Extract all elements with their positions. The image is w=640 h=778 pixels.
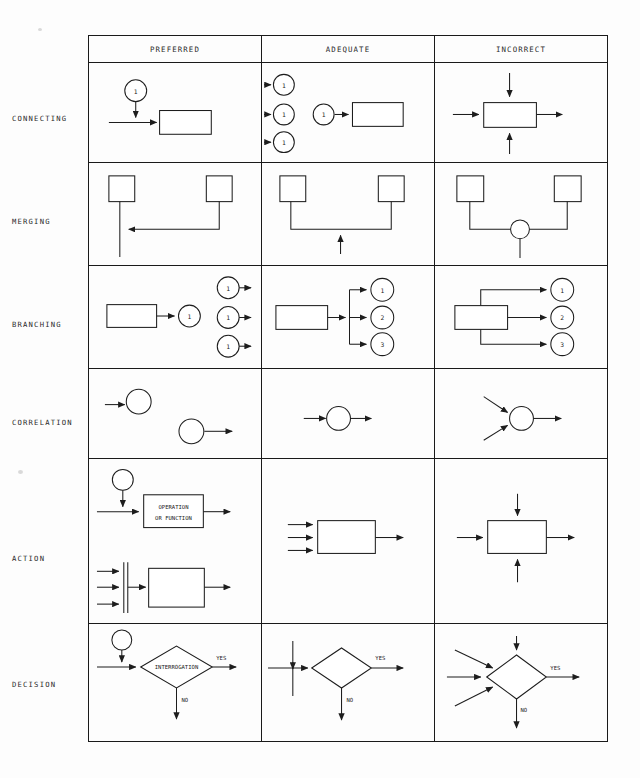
process-box — [109, 176, 135, 202]
decision-label: INTERROGATION — [155, 664, 199, 670]
operation-label-line2: OR FUNCTION — [155, 515, 192, 521]
row-label-merging: MERGING — [0, 217, 86, 226]
decision-diamond — [487, 655, 547, 699]
cell-merging-incorrect — [435, 163, 607, 265]
yes-label: YES — [550, 665, 560, 671]
row-label-action: ACTION — [0, 554, 86, 563]
cell-branching-adequate: 1 2 3 — [262, 266, 435, 368]
cell-connecting-incorrect — [435, 63, 607, 162]
connector-label: 1 — [134, 88, 138, 95]
process-box — [455, 306, 508, 330]
connector-label: 3 — [560, 341, 564, 348]
paper-speck — [38, 28, 42, 31]
correlation-circle — [179, 419, 204, 444]
process-box — [149, 568, 205, 607]
table-body: 1 1 1 1 — [89, 63, 607, 741]
row-label-correlation: CORRELATION — [0, 418, 86, 427]
diagram-sheet: CONNECTING MERGING BRANCHING CORRELATION… — [0, 0, 640, 778]
correlation-circle — [126, 389, 151, 414]
correlation-circle — [510, 407, 534, 431]
process-box — [206, 176, 232, 202]
connector-label: 1 — [188, 313, 192, 320]
connector-label: 1 — [226, 285, 230, 292]
no-label: NO — [181, 697, 188, 703]
connector-label: 1 — [282, 82, 286, 89]
table-row-decision: INTERROGATION YES NO YES — [89, 624, 607, 741]
cell-connecting-adequate: 1 1 1 1 — [262, 63, 435, 162]
row-label-connecting: CONNECTING — [0, 114, 86, 123]
cell-connecting-preferred: 1 — [89, 63, 262, 162]
process-box — [318, 521, 376, 554]
cell-decision-adequate: YES NO — [262, 624, 435, 741]
process-box — [352, 103, 403, 127]
cell-action-preferred: OPERATION OR FUNCTION — [89, 459, 262, 623]
connector-circle — [112, 630, 132, 650]
connector-label: 1 — [282, 111, 286, 118]
row-label-branching: BRANCHING — [0, 320, 86, 329]
table-header-row: PREFERRED ADEQUATE INCORRECT — [89, 36, 607, 63]
process-box — [378, 176, 404, 202]
process-box — [484, 103, 537, 128]
cell-merging-adequate — [262, 163, 435, 265]
connector-label: 1 — [226, 314, 230, 321]
table-row-connecting: 1 1 1 1 — [89, 63, 607, 163]
cell-correlation-incorrect — [435, 369, 607, 458]
conventions-table: PREFERRED ADEQUATE INCORRECT 1 — [88, 35, 608, 742]
table-row-correlation — [89, 369, 607, 459]
process-box — [107, 305, 157, 328]
connector-label: 1 — [380, 287, 384, 294]
column-header-incorrect: INCORRECT — [435, 36, 607, 62]
cell-action-adequate — [262, 459, 435, 623]
table-row-merging — [89, 163, 607, 266]
operation-label-line1: OPERATION — [158, 504, 188, 510]
no-label: NO — [521, 707, 528, 713]
connector-label: 1 — [560, 287, 564, 294]
connector-circle — [112, 469, 133, 490]
connector-label: 3 — [380, 341, 384, 348]
correlation-circle — [327, 407, 351, 431]
process-box — [280, 176, 306, 202]
connector-label: 2 — [380, 314, 384, 321]
cell-branching-incorrect: 1 2 3 — [435, 266, 607, 368]
operation-box — [144, 495, 204, 528]
cell-action-incorrect — [435, 459, 607, 623]
table-row-action: OPERATION OR FUNCTION — [89, 459, 607, 624]
no-label: NO — [347, 697, 354, 703]
process-box — [160, 111, 212, 135]
connector-label: 1 — [282, 139, 286, 146]
decision-diamond — [312, 648, 372, 688]
process-box — [488, 521, 547, 554]
process-box — [276, 306, 328, 330]
row-label-decision: DECISION — [0, 680, 86, 689]
connector-label: 2 — [560, 314, 564, 321]
junction-circle — [511, 220, 530, 239]
table-row-branching: 1 1 1 1 — [89, 266, 607, 369]
connector-label: 1 — [322, 111, 326, 118]
cell-correlation-preferred — [89, 369, 262, 458]
process-box — [554, 176, 581, 202]
column-header-adequate: ADEQUATE — [262, 36, 435, 62]
yes-label: YES — [216, 655, 226, 661]
process-box — [457, 176, 484, 202]
cell-branching-preferred: 1 1 1 1 — [89, 266, 262, 368]
row-label-column: CONNECTING MERGING BRANCHING CORRELATION… — [0, 62, 88, 740]
cell-merging-preferred — [89, 163, 262, 265]
yes-label: YES — [375, 655, 385, 661]
cell-correlation-adequate — [262, 369, 435, 458]
connector-label: 1 — [226, 343, 230, 350]
column-header-preferred: PREFERRED — [89, 36, 262, 62]
cell-decision-incorrect: YES NO — [435, 624, 607, 741]
cell-decision-preferred: INTERROGATION YES NO — [89, 624, 262, 741]
